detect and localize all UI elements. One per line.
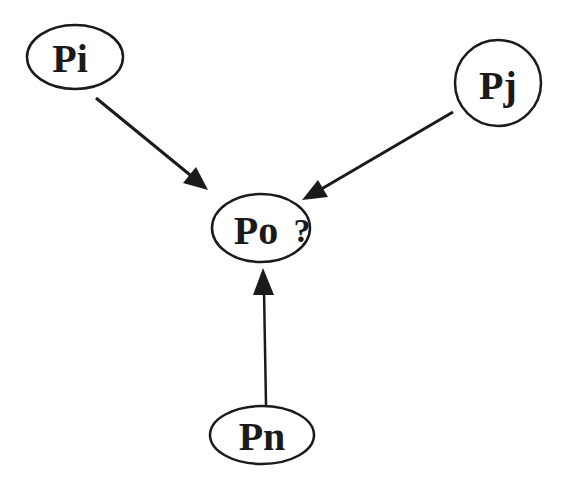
- edge-pj-to-po: [302, 112, 453, 200]
- node-label-pn: Pn: [239, 414, 286, 459]
- node-pn: Pn: [210, 406, 314, 464]
- node-label-po: Po: [234, 208, 278, 253]
- node-pi: Pi: [27, 25, 123, 89]
- diagram-canvas: Pi Pj Po ? Pn: [0, 0, 567, 486]
- edge-pn-to-po: [253, 268, 274, 405]
- node-label-pi: Pi: [52, 36, 88, 81]
- node-po: Po ?: [212, 194, 311, 262]
- arrowhead-icon: [302, 180, 328, 200]
- node-pj: Pj: [455, 40, 541, 126]
- node-label-pj: Pj: [479, 63, 517, 108]
- arrowhead-icon: [253, 268, 274, 295]
- edge-pi-to-po: [96, 98, 208, 190]
- node-suffix-po: ?: [294, 212, 311, 249]
